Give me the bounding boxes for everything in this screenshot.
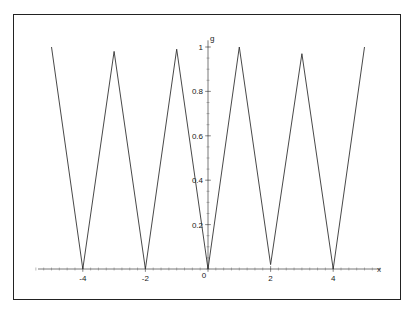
y-tick-label: 0.6 (192, 132, 204, 141)
x-tick-label: -4 (79, 274, 87, 283)
x-tick-label: 0 (202, 271, 207, 280)
axes (38, 40, 380, 269)
x-tick-label: -2 (142, 274, 150, 283)
x-tick-label: 2 (268, 274, 273, 283)
x-tick-label: 4 (331, 274, 336, 283)
y-tick-label: 0.8 (192, 87, 204, 96)
line-chart: -4-20240.20.40.60.81 x g (0, 0, 413, 315)
y-tick-label: 0.4 (192, 176, 204, 185)
y-tick-label: 1 (199, 43, 204, 52)
x-axis-label: x (377, 265, 381, 274)
y-axis-label: g (210, 34, 214, 43)
